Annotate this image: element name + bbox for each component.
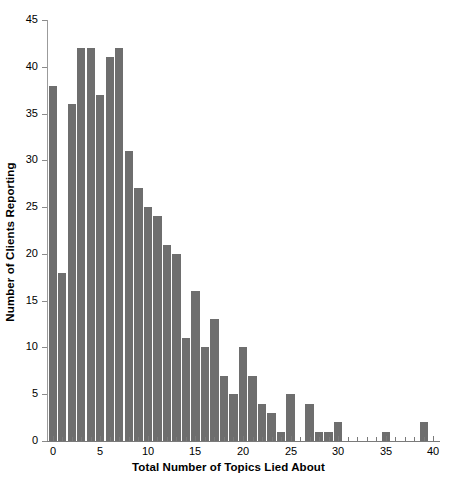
x-tick-mark-minor (262, 437, 263, 441)
x-tick-mark-major (243, 436, 244, 441)
bar (49, 86, 57, 442)
x-tick-mark-minor (72, 437, 73, 441)
x-tick-mark-minor (119, 437, 120, 441)
x-tick-label: 25 (271, 446, 311, 457)
x-tick-mark-major (53, 436, 54, 441)
bar (144, 207, 152, 441)
histogram-figure: Number of Clients Reporting 051015202530… (0, 0, 457, 484)
x-tick-mark-minor (300, 437, 301, 441)
bar (210, 319, 218, 441)
x-tick-mark-major (386, 436, 387, 441)
bar (68, 104, 76, 441)
x-tick-label: 35 (366, 446, 406, 457)
x-tick-mark-minor (110, 437, 111, 441)
y-tick-label: 5 (12, 388, 38, 399)
x-tick-mark-minor (424, 437, 425, 441)
y-tick-label: 10 (12, 341, 38, 352)
bar (115, 48, 123, 441)
x-axis-title: Total Number of Topics Lied About (0, 461, 457, 473)
x-tick-label: 0 (33, 446, 73, 457)
bar (87, 48, 95, 441)
bar (305, 404, 313, 441)
x-tick-mark-minor (310, 437, 311, 441)
x-tick-mark-minor (329, 437, 330, 441)
y-tick-label: 45 (12, 14, 38, 25)
bar (286, 394, 294, 441)
x-tick-mark-minor (281, 437, 282, 441)
y-tick-label: 40 (12, 61, 38, 72)
x-tick-mark-major (100, 436, 101, 441)
x-tick-mark-minor (138, 437, 139, 441)
x-tick-mark-major (195, 436, 196, 441)
bar (220, 376, 228, 441)
x-tick-label: 20 (223, 446, 263, 457)
bar (172, 254, 180, 441)
y-tick-label: 30 (12, 154, 38, 165)
x-tick-mark-major (338, 436, 339, 441)
x-tick-mark-minor (319, 437, 320, 441)
x-tick-mark-minor (233, 437, 234, 441)
x-tick-label: 5 (80, 446, 120, 457)
bar (125, 151, 133, 441)
x-tick-mark-minor (272, 437, 273, 441)
x-tick-mark-minor (348, 437, 349, 441)
x-tick-label: 10 (128, 446, 168, 457)
y-axis-title: Number of Clients Reporting (0, 0, 20, 484)
x-tick-mark-major (148, 436, 149, 441)
x-axis-line (47, 441, 440, 442)
x-tick-mark-major (433, 436, 434, 441)
bar (239, 347, 247, 441)
bar (163, 245, 171, 441)
bar (191, 291, 199, 441)
x-tick-mark-minor (62, 437, 63, 441)
plot-area (47, 20, 439, 441)
x-tick-mark-minor (376, 437, 377, 441)
x-tick-mark-minor (357, 437, 358, 441)
bar (201, 347, 209, 441)
x-tick-mark-minor (214, 437, 215, 441)
x-tick-mark-minor (176, 437, 177, 441)
x-tick-mark-minor (414, 437, 415, 441)
bar (77, 48, 85, 441)
x-tick-mark-minor (205, 437, 206, 441)
bar (258, 404, 266, 441)
bar (229, 394, 237, 441)
bar (58, 273, 66, 441)
x-tick-mark-minor (81, 437, 82, 441)
y-tick-label: 0 (12, 435, 38, 446)
y-tick-label: 20 (12, 248, 38, 259)
x-tick-mark-minor (367, 437, 368, 441)
y-tick-label: 25 (12, 201, 38, 212)
x-tick-label: 30 (318, 446, 358, 457)
x-tick-mark-minor (253, 437, 254, 441)
x-tick-mark-minor (405, 437, 406, 441)
bar (182, 338, 190, 441)
bar (134, 188, 142, 441)
x-tick-label: 15 (175, 446, 215, 457)
x-tick-mark-minor (129, 437, 130, 441)
x-tick-mark-minor (167, 437, 168, 441)
bar (106, 57, 114, 441)
y-tick-label: 15 (12, 295, 38, 306)
bar (96, 95, 104, 441)
x-tick-mark-minor (395, 437, 396, 441)
x-tick-mark-major (291, 436, 292, 441)
x-tick-mark-minor (186, 437, 187, 441)
x-tick-mark-minor (224, 437, 225, 441)
bar (153, 216, 161, 441)
bar (248, 376, 256, 441)
x-tick-mark-minor (91, 437, 92, 441)
y-tick-label: 35 (12, 108, 38, 119)
x-tick-label: 40 (413, 446, 453, 457)
x-tick-mark-minor (157, 437, 158, 441)
